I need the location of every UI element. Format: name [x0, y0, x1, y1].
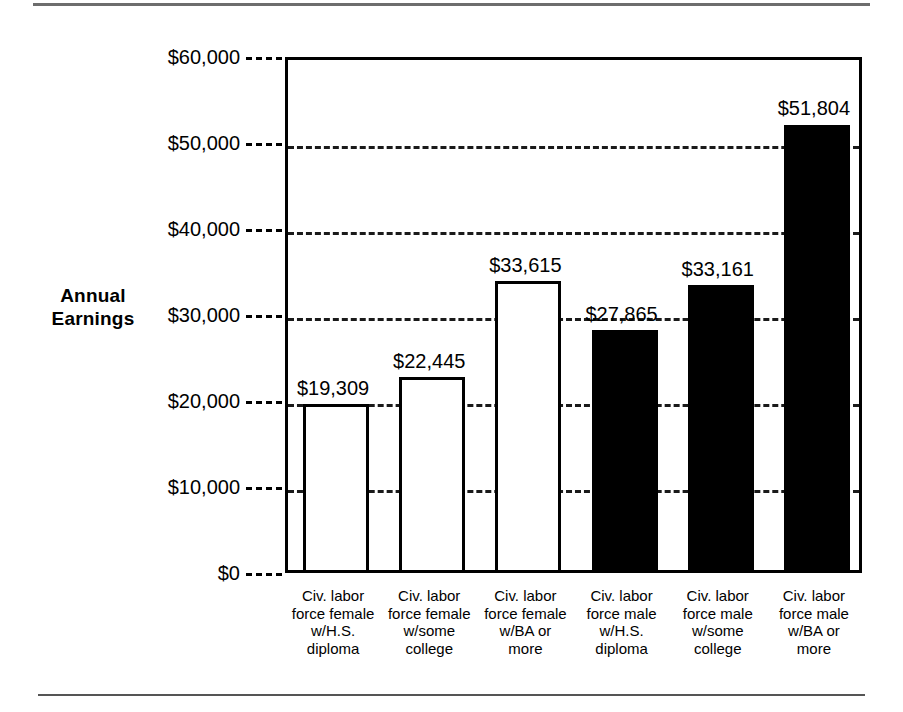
x-axis-category-label: Civ. laborforce malew/BA ormore [766, 587, 862, 657]
category-label-line: w/BA or [477, 622, 573, 640]
x-axis-category-label: Civ. laborforce femalew/H.S.diploma [285, 587, 381, 657]
category-label-line: diploma [285, 640, 381, 658]
category-label-line: more [477, 640, 573, 658]
y-tick-label: $10,000 [100, 477, 240, 497]
y-tick-mark [246, 401, 282, 404]
bar [688, 285, 754, 570]
earnings-bar-chart-figure: Annual Earnings $60,000$50,000$40,000$30… [0, 0, 903, 712]
category-label-line: Civ. labor [766, 587, 862, 605]
y-tick-label: $0 [100, 563, 240, 583]
category-label-line: diploma [574, 640, 670, 658]
y-tick-label: $30,000 [100, 305, 240, 325]
y-tick-mark [246, 143, 282, 146]
category-label-line: Civ. labor [381, 587, 477, 605]
category-label-line: force female [381, 605, 477, 623]
category-label-line: Civ. labor [477, 587, 573, 605]
gridline [288, 490, 859, 493]
category-label-line: force female [285, 605, 381, 623]
y-tick-mark [246, 229, 282, 232]
y-tick-label: $40,000 [100, 219, 240, 239]
category-label-line: force male [670, 605, 766, 623]
bar-value-label: $22,445 [369, 351, 489, 371]
y-tick-label: $50,000 [100, 133, 240, 153]
category-label-line: more [766, 640, 862, 658]
bar [399, 377, 465, 570]
bar [303, 404, 369, 570]
category-label-line: w/some [381, 622, 477, 640]
x-axis-category-label: Civ. laborforce femalew/BA ormore [477, 587, 573, 657]
category-label-line: w/H.S. [574, 622, 670, 640]
y-tick-mark [246, 487, 282, 490]
y-tick-mark [246, 315, 282, 318]
gridline [288, 146, 859, 149]
category-label-line: Civ. labor [285, 587, 381, 605]
category-label-line: w/some [670, 622, 766, 640]
x-axis-category-label: Civ. laborforce malew/H.S.diploma [574, 587, 670, 657]
y-tick-mark [246, 57, 282, 60]
bottom-rule [38, 694, 865, 696]
category-label-line: w/H.S. [285, 622, 381, 640]
gridline [288, 232, 859, 235]
bar [495, 281, 561, 570]
gridline [288, 404, 859, 407]
category-label-line: college [381, 640, 477, 658]
y-axis-title-line1: Annual [28, 284, 158, 307]
category-label-line: w/BA or [766, 622, 862, 640]
x-axis-category-label: Civ. laborforce femalew/somecollege [381, 587, 477, 657]
y-tick-mark [246, 573, 282, 576]
bar [592, 330, 658, 570]
x-axis-category-label: Civ. laborforce malew/somecollege [670, 587, 766, 657]
category-label-line: force female [477, 605, 573, 623]
category-label-line: college [670, 640, 766, 658]
y-tick-label: $20,000 [100, 391, 240, 411]
category-label-line: force male [574, 605, 670, 623]
bar-value-label: $33,161 [658, 259, 778, 279]
bar-value-label: $33,615 [465, 255, 585, 275]
category-label-line: force male [766, 605, 862, 623]
y-tick-label: $60,000 [100, 47, 240, 67]
bar [784, 125, 850, 571]
top-rule [33, 3, 870, 6]
bar-value-label: $19,309 [273, 378, 393, 398]
bar-value-label: $27,865 [562, 304, 682, 324]
category-label-line: Civ. labor [574, 587, 670, 605]
bar-value-label: $51,804 [754, 98, 874, 118]
category-label-line: Civ. labor [670, 587, 766, 605]
